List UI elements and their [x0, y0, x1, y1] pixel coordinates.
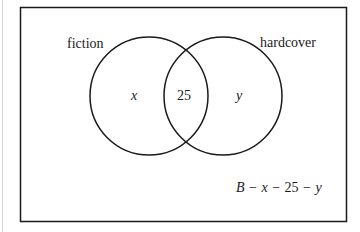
hardcover-label: hardcover — [260, 35, 316, 50]
expr-25: 25 — [285, 180, 299, 195]
expr-minus-1: − — [249, 180, 257, 195]
fiction-only-value: x — [130, 88, 138, 103]
expr-x: x — [260, 180, 268, 195]
intersection-value: 25 — [177, 88, 191, 103]
expr-b: B — [236, 180, 245, 195]
fiction-label: fiction — [67, 36, 104, 51]
outside-expression: B − x − 25 − y — [236, 180, 323, 195]
expr-minus-3: − — [303, 180, 311, 195]
venn-diagram: fiction hardcover x 25 y B − x − 25 − y — [0, 0, 360, 232]
hardcover-only-value: y — [234, 88, 243, 103]
expr-minus-2: − — [272, 180, 280, 195]
expr-y: y — [314, 180, 323, 195]
